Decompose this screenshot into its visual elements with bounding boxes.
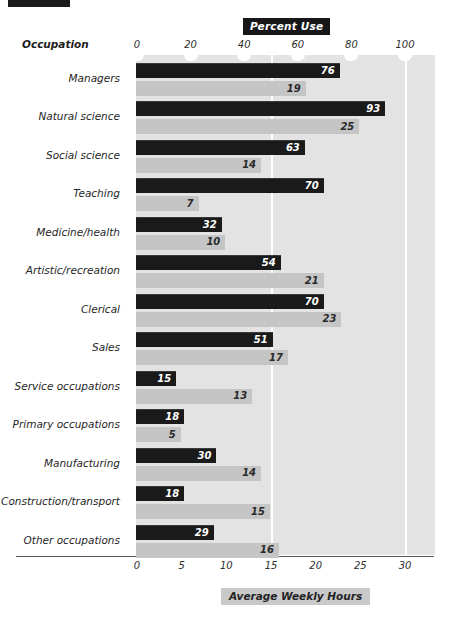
bar-average-weekly-hours: 14 [136, 466, 261, 481]
percent-use-title: Percent Use [243, 18, 330, 35]
category-label-9: Primary occupations [13, 417, 120, 431]
bar-value-label: 15 [157, 374, 176, 384]
category-label-10: Manufacturing [44, 456, 120, 470]
bar-percent-use: 63 [136, 140, 305, 155]
bottom-axis-tick-25: 25 [354, 560, 367, 571]
bar-value-label: 16 [260, 545, 279, 555]
category-label-3: Teaching [73, 186, 120, 200]
chart-row: 7023 [136, 288, 435, 324]
bar-percent-use: 54 [136, 255, 281, 270]
top-axis-tick-100: 100 [395, 39, 414, 50]
bar-value-label: 51 [254, 335, 273, 345]
bar-value-label: 5 [169, 430, 181, 440]
chart-row: 5421 [136, 249, 435, 285]
chart-plot-area: 7619932563147073210542170235117151318530… [136, 55, 435, 555]
bar-percent-use: 93 [136, 101, 385, 116]
bar-value-label: 29 [195, 528, 214, 538]
average-weekly-hours-title: Average Weekly Hours [221, 588, 370, 605]
bar-percent-use: 15 [136, 371, 176, 386]
bar-value-label: 21 [305, 276, 324, 286]
bottom-axis-tick-5: 5 [178, 560, 184, 571]
bar-percent-use: 30 [136, 448, 216, 463]
chart-row: 185 [136, 403, 435, 439]
bar-value-label: 18 [165, 489, 184, 499]
category-label-7: Sales [92, 340, 120, 354]
category-label-2: Social science [46, 148, 120, 162]
top-crop-bar [8, 0, 70, 7]
bar-value-label: 70 [305, 297, 324, 307]
chart-row: 2916 [136, 519, 435, 555]
bar-value-label: 25 [340, 122, 359, 132]
category-label-12: Other occupations [24, 533, 120, 547]
bar-average-weekly-hours: 21 [136, 273, 324, 288]
chart-row: 3210 [136, 211, 435, 247]
bar-average-weekly-hours: 10 [136, 235, 225, 250]
bottom-axis-tick-15: 15 [265, 560, 278, 571]
chart-row: 3014 [136, 442, 435, 478]
category-label-6: Clerical [81, 302, 120, 316]
bottom-axis-tick-10: 10 [220, 560, 233, 571]
bar-value-label: 76 [321, 66, 340, 76]
bar-value-label: 70 [305, 181, 324, 191]
bar-value-label: 32 [203, 220, 222, 230]
bar-average-weekly-hours: 17 [136, 350, 288, 365]
bar-percent-use: 76 [136, 63, 340, 78]
bar-value-label: 17 [269, 353, 288, 363]
bar-value-label: 19 [287, 84, 306, 94]
bar-value-label: 18 [165, 412, 184, 422]
bar-average-weekly-hours: 25 [136, 119, 359, 134]
chart-row: 9325 [136, 95, 435, 131]
chart-row: 707 [136, 172, 435, 208]
bar-value-label: 7 [187, 199, 199, 209]
bar-value-label: 63 [286, 143, 305, 153]
bar-average-weekly-hours: 7 [136, 196, 199, 211]
category-label-1: Natural science [38, 109, 120, 123]
bar-average-weekly-hours: 16 [136, 543, 279, 558]
bar-percent-use: 70 [136, 294, 324, 309]
bar-average-weekly-hours: 5 [136, 427, 181, 442]
bar-percent-use: 70 [136, 178, 324, 193]
bar-value-label: 30 [197, 451, 216, 461]
chart-row: 5117 [136, 326, 435, 362]
bar-value-label: 10 [206, 237, 225, 247]
top-axis-tick-20: 20 [184, 39, 197, 50]
bottom-axis-tick-0: 0 [134, 560, 140, 571]
bar-average-weekly-hours: 15 [136, 504, 270, 519]
category-label-0: Managers [69, 71, 121, 85]
category-label-11: Construction/transport [1, 494, 120, 508]
bar-value-label: 23 [323, 314, 342, 324]
category-labels: ManagersNatural scienceSocial scienceTea… [0, 55, 128, 555]
category-label-4: Medicine/health [36, 225, 120, 239]
bar-value-label: 13 [233, 391, 252, 401]
bottom-axis-tick-30: 30 [399, 560, 412, 571]
top-axis-ticks: 020406080100 [0, 39, 450, 53]
bar-average-weekly-hours: 23 [136, 312, 341, 327]
bar-average-weekly-hours: 19 [136, 81, 306, 96]
bar-percent-use: 51 [136, 332, 273, 347]
bar-value-label: 93 [366, 104, 385, 114]
top-axis-tick-60: 60 [291, 39, 304, 50]
bar-percent-use: 32 [136, 217, 222, 232]
chart-row: 1513 [136, 365, 435, 401]
bar-average-weekly-hours: 13 [136, 389, 252, 404]
bar-percent-use: 18 [136, 486, 184, 501]
chart-row: 6314 [136, 134, 435, 170]
bar-value-label: 14 [242, 468, 261, 478]
top-axis-tick-80: 80 [345, 39, 358, 50]
chart-row: 1815 [136, 480, 435, 516]
bottom-axis-tick-20: 20 [309, 560, 322, 571]
bar-value-label: 15 [251, 507, 270, 517]
bar-value-label: 14 [242, 160, 261, 170]
bar-percent-use: 18 [136, 409, 184, 424]
bar-percent-use: 29 [136, 525, 214, 540]
category-label-8: Service occupations [15, 379, 120, 393]
top-axis-tick-40: 40 [238, 39, 251, 50]
top-axis-tick-0: 0 [134, 39, 140, 50]
bar-average-weekly-hours: 14 [136, 158, 261, 173]
bottom-axis-ticks: 051015202530 [0, 560, 450, 574]
chart-row: 7619 [136, 57, 435, 93]
category-label-5: Artistic/recreation [26, 263, 120, 277]
bar-value-label: 54 [262, 258, 281, 268]
